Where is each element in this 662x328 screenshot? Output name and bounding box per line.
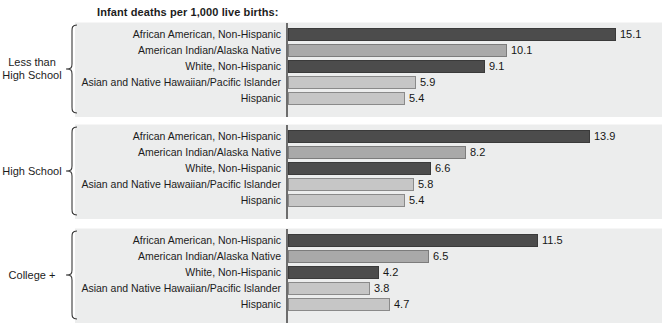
category-label: Asian and Native Hawaiian/Pacific Island… [51, 76, 281, 89]
bar [288, 266, 379, 279]
bar-row: 6.6 [286, 162, 433, 175]
category-label: American Indian/Alaska Native [51, 250, 281, 263]
category-label: African American, Non-Hispanic [51, 130, 281, 143]
bar-value-label: 11.5 [542, 233, 563, 247]
bar [288, 282, 370, 295]
bar-row: 4.2 [286, 266, 381, 279]
category-label: White, Non-Hispanic [51, 162, 281, 175]
bar [288, 92, 405, 105]
category-label: White, Non-Hispanic [51, 266, 281, 279]
bar-row: 5.8 [286, 178, 416, 191]
education-group-label-line: Less than [0, 56, 64, 69]
bar-value-label: 4.7 [394, 297, 409, 311]
bar [288, 162, 431, 175]
category-label: Hispanic [51, 92, 281, 105]
group-brace [64, 24, 78, 114]
bar-row: 10.1 [286, 44, 509, 57]
category-label: American Indian/Alaska Native [51, 146, 281, 159]
education-group-label: Less thanHigh School [0, 56, 64, 82]
bar [288, 28, 616, 41]
bar [288, 60, 485, 73]
bar [288, 178, 414, 191]
chart-title: Infant deaths per 1,000 live births: [97, 6, 279, 18]
bar [288, 194, 405, 207]
infant-mortality-chart: Infant deaths per 1,000 live births: 15.… [0, 0, 662, 328]
bar-value-label: 3.8 [374, 281, 389, 295]
bar [288, 76, 416, 89]
bar-row: 9.1 [286, 60, 487, 73]
bar-value-label: 5.4 [409, 91, 424, 105]
category-label: Asian and Native Hawaiian/Pacific Island… [51, 282, 281, 295]
education-group-label: College + [0, 269, 64, 282]
bar-row: 13.9 [286, 130, 592, 143]
category-label: Hispanic [51, 194, 281, 207]
bar [288, 146, 466, 159]
bar [288, 250, 429, 263]
bar-value-label: 8.2 [470, 145, 485, 159]
bar-value-label: 15.1 [620, 27, 641, 41]
bar-value-label: 4.2 [383, 265, 398, 279]
bar [288, 298, 390, 311]
education-group-panel: 13.9African American, Non-Hispanic8.2Ame… [75, 124, 662, 219]
category-label: Hispanic [51, 298, 281, 311]
bar-value-label: 5.9 [420, 75, 435, 89]
bar-value-label: 9.1 [489, 59, 504, 73]
bar-row: 6.5 [286, 250, 431, 263]
education-group-label-line: High School [0, 165, 64, 178]
education-group-panel: 15.1African American, Non-Hispanic10.1Am… [75, 22, 662, 117]
education-group-label: High School [0, 165, 64, 178]
group-brace [64, 230, 78, 320]
bar-row: 11.5 [286, 234, 540, 247]
bar-value-label: 6.6 [435, 161, 450, 175]
bar-row: 5.9 [286, 76, 418, 89]
category-label: African American, Non-Hispanic [51, 28, 281, 41]
bar-row: 15.1 [286, 28, 618, 41]
bar [288, 130, 590, 143]
bar [288, 234, 538, 247]
education-group-label-line: High School [0, 69, 64, 82]
bar-value-label: 6.5 [433, 249, 448, 263]
bar-row: 3.8 [286, 282, 372, 295]
bar-row: 8.2 [286, 146, 468, 159]
category-label: American Indian/Alaska Native [51, 44, 281, 57]
bar-value-label: 13.9 [594, 129, 615, 143]
category-label: African American, Non-Hispanic [51, 234, 281, 247]
category-label: White, Non-Hispanic [51, 60, 281, 73]
bar-value-label: 5.4 [409, 193, 424, 207]
education-group-panel: 11.5African American, Non-Hispanic6.5Ame… [75, 228, 662, 323]
category-label: Asian and Native Hawaiian/Pacific Island… [51, 178, 281, 191]
bar-value-label: 10.1 [511, 43, 532, 57]
bar-value-label: 5.8 [418, 177, 433, 191]
bar-row: 5.4 [286, 194, 407, 207]
group-brace [64, 126, 78, 216]
bar [288, 44, 507, 57]
bar-row: 4.7 [286, 298, 392, 311]
education-group-label-line: College + [0, 269, 64, 282]
bar-row: 5.4 [286, 92, 407, 105]
